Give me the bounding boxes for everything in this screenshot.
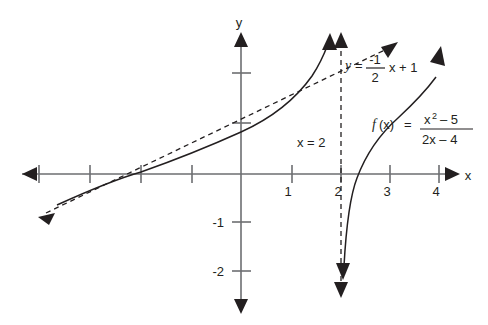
slant-asymptote-left-arrowhead	[38, 213, 55, 225]
function-left-branch-arrowhead	[322, 33, 337, 50]
function-left-branch-group	[57, 33, 337, 205]
x-tick-label-4: 4	[432, 184, 439, 199]
y-axis-name-label: y	[236, 15, 243, 30]
slant-eq-tail: x + 1	[389, 60, 418, 75]
slant-eq-equals: =	[355, 58, 363, 73]
y-tick-label-neg2: -2	[212, 264, 224, 279]
vertical-asymptote-top-arrowhead	[334, 32, 348, 48]
function-eq-numerator-tail: – 5	[440, 112, 458, 127]
slant-asymptote-right-arrowhead	[381, 42, 398, 58]
function-right-branch-bottom-arrowhead	[336, 263, 350, 280]
y-axis-bottom-arrowhead	[234, 299, 248, 314]
x-tick-label-3: 3	[383, 184, 390, 199]
x-axis-left-arrowhead	[22, 167, 37, 181]
slant-eq-denominator: 2	[371, 70, 378, 85]
x-axis-name-label: x	[465, 168, 472, 183]
function-eq-numerator-exponent: 2	[432, 111, 437, 121]
slant-eq-numerator: -1	[369, 52, 381, 67]
function-eq-numerator-base: x	[424, 112, 431, 127]
slant-eq-lhs: y	[343, 58, 352, 73]
function-eq-name: f	[372, 117, 378, 132]
x-tick-label-1: 1	[284, 184, 291, 199]
function-equation: f (x) = x 2 – 5 2x – 4	[372, 111, 473, 147]
y-tick-label-neg1: -1	[212, 215, 224, 230]
y-axis-top-arrowhead	[234, 32, 248, 47]
function-right-branch-arrowhead	[430, 46, 445, 66]
x-axis-right-arrowhead	[445, 167, 460, 181]
vertical-asymptote-bottom-arrowhead	[334, 282, 348, 298]
function-right-branch-group	[336, 46, 445, 280]
function-eq-denominator: 2x – 4	[422, 132, 457, 147]
slant-asymptote-group	[38, 42, 398, 225]
coordinate-plane-svg: 1 2 3 4 -1 -2 x y	[0, 0, 488, 325]
function-eq-argument: (x)	[379, 117, 394, 132]
function-eq-equals: =	[404, 117, 412, 132]
vertical-asymptote-label: x = 2	[297, 135, 326, 150]
slant-asymptote-equation: y = -1 2 x + 1	[343, 52, 418, 85]
graph-figure: 1 2 3 4 -1 -2 x y	[0, 0, 488, 325]
